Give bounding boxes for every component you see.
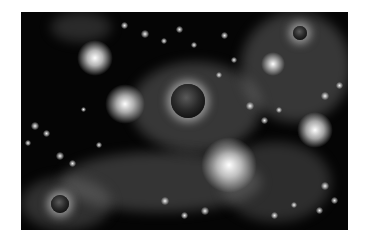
star-dot	[221, 32, 228, 39]
star-dot	[276, 107, 282, 113]
star-dot	[246, 102, 254, 110]
star-dot	[56, 152, 64, 160]
star-glow	[297, 112, 333, 148]
nebula-cloud	[51, 12, 111, 42]
top-right-planet	[293, 26, 307, 40]
star-dot	[331, 197, 338, 204]
star-glow	[105, 84, 145, 124]
star-dot	[121, 22, 128, 29]
star-dot	[216, 72, 222, 78]
center-planet	[171, 84, 205, 118]
star-glow	[77, 40, 113, 76]
star-dot	[43, 130, 50, 137]
space-scene	[21, 12, 348, 230]
star-dot	[25, 140, 31, 146]
star-dot	[321, 182, 329, 190]
star-dot	[336, 82, 343, 89]
star-dot	[231, 57, 237, 63]
star-dot	[261, 117, 268, 124]
star-dot	[96, 142, 102, 148]
star-glow	[201, 137, 257, 193]
bottom-left-planet	[51, 195, 69, 213]
star-dot	[69, 160, 76, 167]
star-dot	[181, 212, 188, 219]
star-dot	[161, 38, 167, 44]
star-dot	[81, 107, 86, 112]
star-dot	[291, 202, 297, 208]
star-dot	[191, 42, 197, 48]
star-glow	[261, 52, 285, 76]
star-dot	[31, 122, 39, 130]
star-dot	[271, 212, 278, 219]
star-dot	[201, 207, 209, 215]
star-dot	[176, 26, 183, 33]
star-dot	[321, 92, 329, 100]
star-dot	[161, 197, 169, 205]
star-dot	[141, 30, 149, 38]
star-dot	[316, 207, 323, 214]
